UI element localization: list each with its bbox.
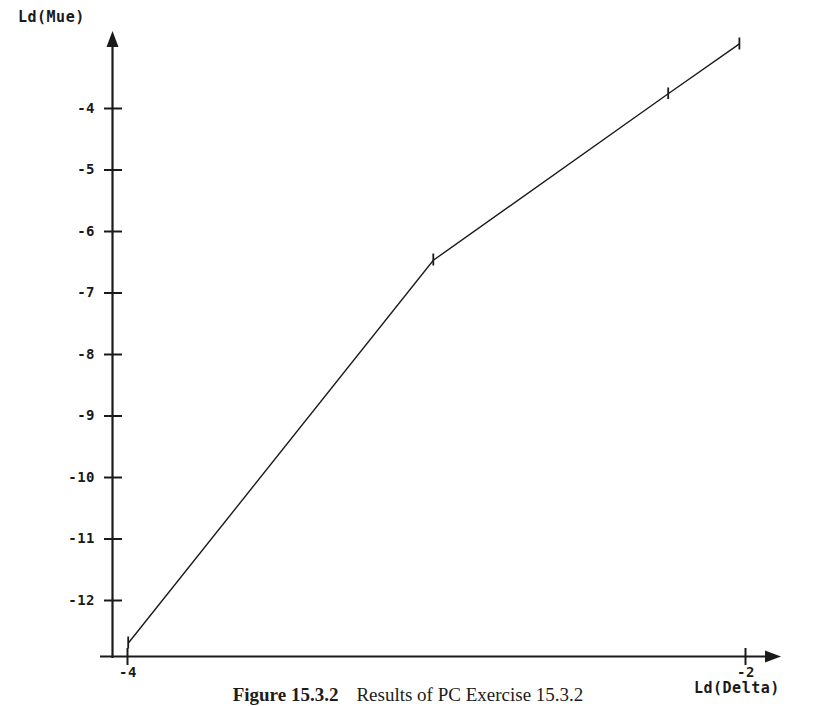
y-tick-label--5: -5 (33, 161, 95, 177)
data-point-markers (128, 38, 739, 649)
y-tick-label--12: -12 (33, 592, 95, 608)
x-axis-arrowhead (765, 651, 781, 663)
y-axis-arrowhead (107, 31, 119, 47)
y-tick-label--10: -10 (33, 469, 95, 485)
y-tick-label--8: -8 (33, 346, 95, 362)
x-tick-label--2: -2 (726, 664, 766, 680)
chart-plot-canvas (0, 0, 816, 706)
data-series-line (128, 44, 739, 643)
y-axis-title: Ld(Mue) (18, 8, 85, 26)
y-tick-label--7: -7 (33, 284, 95, 300)
figure-caption: Figure 15.3.2Results of PC Exercise 15.3… (0, 684, 816, 706)
figure-container: Ld(Mue) Ld(Delta) -4 -5 -6 -7 -8 -9 -10 … (0, 0, 816, 706)
x-axis (100, 651, 781, 663)
y-tick-label--6: -6 (33, 223, 95, 239)
y-tick-label--11: -11 (33, 530, 95, 546)
y-tick-label--9: -9 (33, 407, 95, 423)
x-tick-label--4: -4 (108, 664, 148, 680)
y-tick-label--4: -4 (33, 100, 95, 116)
figure-caption-number: Figure 15.3.2 (233, 684, 339, 705)
y-axis (107, 31, 119, 658)
figure-caption-text: Results of PC Exercise 15.3.2 (356, 684, 583, 705)
